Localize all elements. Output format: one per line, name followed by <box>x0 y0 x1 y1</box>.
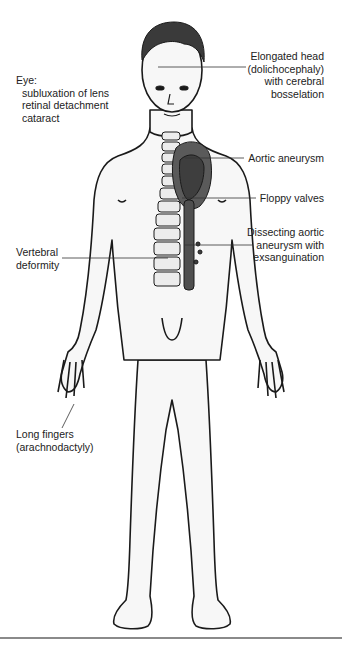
dissecting-line: exsanguination <box>247 251 324 264</box>
head-label-line: bosselation <box>248 88 324 101</box>
vertebral-line: deformity <box>16 259 59 272</box>
eye-label-line: subluxation of lens <box>16 87 109 100</box>
vertebral-deformity-label: Vertebral deformity <box>16 246 59 271</box>
head-label-line: Elongated head <box>248 50 324 63</box>
dissecting-aneurysm-label: Dissecting aortic aneurysm with exsangui… <box>247 226 324 264</box>
vertebral-line: Vertebral <box>16 246 59 259</box>
eye-label-line: retinal detachment <box>16 99 109 112</box>
floppy-valves-text: Floppy valves <box>260 192 324 205</box>
dissecting-line: Dissecting aortic <box>247 226 324 239</box>
eye-label: Eye: subluxation of lens retinal detachm… <box>16 74 109 124</box>
bottom-divider <box>0 637 342 639</box>
fingers-line: Long fingers <box>16 428 94 441</box>
aortic-aneurysm-label: Aortic aneurysm <box>248 152 324 165</box>
eye-label-title: Eye: <box>16 74 109 87</box>
eye-label-line: cataract <box>16 112 109 125</box>
head-label-line: with cerebral <box>248 75 324 88</box>
floppy-valves-label: Floppy valves <box>260 192 324 205</box>
dissecting-line: aneurysm with <box>247 239 324 252</box>
fingers-line: (arachnodactyly) <box>16 441 94 454</box>
aortic-aneurysm-text: Aortic aneurysm <box>248 152 324 165</box>
head-label: Elongated head (dolichocephaly) with cer… <box>248 50 324 100</box>
head-label-line: (dolichocephaly) <box>248 63 324 76</box>
long-fingers-label: Long fingers (arachnodactyly) <box>16 428 94 453</box>
